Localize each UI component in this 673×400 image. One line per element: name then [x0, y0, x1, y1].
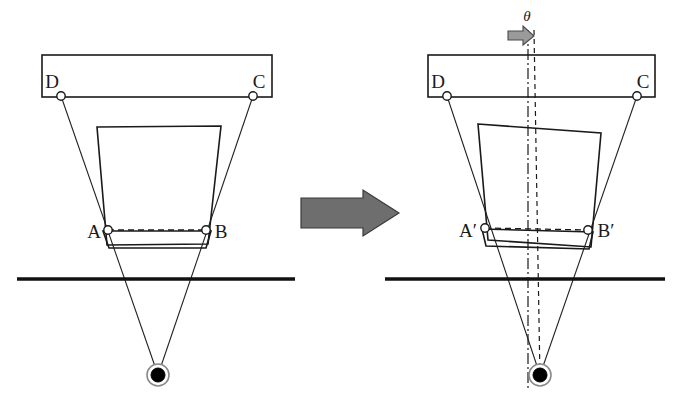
transition-arrow-icon [301, 190, 399, 236]
right-target-center-dot [533, 368, 547, 382]
right-label-b-prime: B′ [598, 220, 615, 241]
right-label-c: C [637, 71, 650, 92]
right-joint-d [443, 92, 451, 100]
right-label-d: D [431, 71, 445, 92]
left-joint-c [249, 92, 257, 100]
left-joint-d [57, 92, 65, 100]
left-joint-b [202, 226, 210, 234]
left-panel-initial-state: D C A B [17, 55, 295, 386]
right-axis-tilted-dashed [534, 30, 540, 378]
right-link-c-to-target [540, 96, 637, 375]
left-link-d-to-target [61, 96, 158, 375]
diagram-canvas: D C A B θ D C A [0, 0, 673, 400]
left-target-center-dot [151, 368, 165, 382]
left-chassis-bar [42, 55, 272, 97]
left-link-c-to-target [158, 96, 253, 375]
left-joint-a [104, 226, 112, 234]
right-panel-rotated-state: θ D C A′ B′ [385, 8, 665, 390]
right-label-a-prime: A′ [459, 220, 477, 241]
left-label-d: D [45, 71, 59, 92]
left-label-c: C [253, 71, 266, 92]
left-label-a: A [87, 221, 101, 242]
left-label-b: B [215, 221, 228, 242]
right-label-theta: θ [523, 8, 531, 24]
right-joint-b [584, 226, 592, 234]
right-chassis-bar [428, 55, 655, 97]
rotation-diagram-svg: D C A B θ D C A [0, 0, 673, 400]
right-joint-c [633, 92, 641, 100]
right-joint-a [481, 224, 489, 232]
rotation-direction-arrow-icon [508, 26, 534, 45]
